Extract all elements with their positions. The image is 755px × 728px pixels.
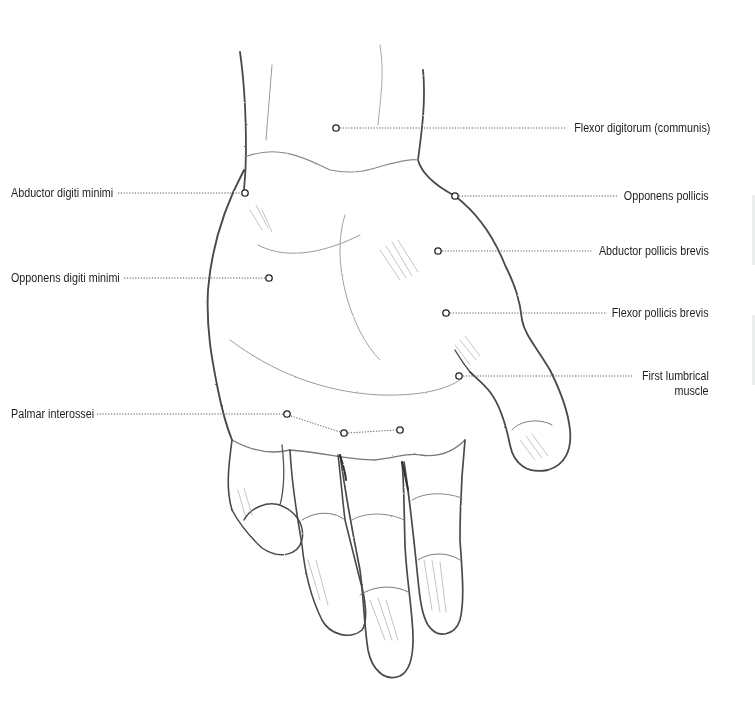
marker-opponens-digiti-minimi (266, 275, 272, 281)
hand-sketch (0, 0, 755, 728)
marker-opponens-pollicis (452, 193, 458, 199)
marker-first-lumbrical (456, 373, 462, 379)
label-first-lumbrical: First lumbrical (642, 369, 709, 383)
marker-flexor-digitorum (333, 125, 339, 131)
label-abductor-pollicis-brevis: Abductor pollicis brevis (599, 244, 709, 258)
leader-lines (97, 128, 633, 433)
label-flexor-digitorum: Flexor digitorum (communis) (574, 121, 710, 135)
marker-flexor-pollicis-brevis (443, 310, 449, 316)
label-palmar-interossei: Palmar interossei (11, 407, 94, 421)
label-abductor-digiti-minimi: Abductor digiti minimi (11, 186, 113, 200)
marker-palmar-interossei-3 (397, 427, 403, 433)
label-flexor-pollicis-brevis: Flexor pollicis brevis (612, 306, 709, 320)
marker-palmar-interossei-2 (341, 430, 347, 436)
marker-palmar-interossei-1 (284, 411, 290, 417)
marker-abductor-pollicis-brevis (435, 248, 441, 254)
label-opponens-digiti-minimi: Opponens digiti minimi (11, 271, 120, 285)
hand-outline (208, 45, 571, 678)
marker-abductor-digiti-minimi (242, 190, 248, 196)
label-opponens-pollicis: Opponens pollicis (624, 189, 709, 203)
label-first-lumbrical-line2: muscle (675, 384, 709, 398)
